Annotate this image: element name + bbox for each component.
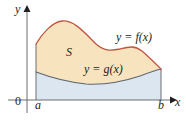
origin-label: 0 [15,95,21,107]
y-axis-arrowhead [24,5,31,12]
curve-label-f-of-x: y = f(x) [116,31,152,43]
x-axis-label: x [175,96,180,108]
y-axis-label: y [15,3,20,15]
x-tick-label-b: b [158,99,164,111]
x-tick-label-a: a [35,99,41,111]
area-between-curves-figure: y x 0 a b S y = f(x) y = g(x) [0,0,186,126]
region-label-s: S [66,46,72,58]
curve-label-g-of-x: y = g(x) [84,63,123,75]
